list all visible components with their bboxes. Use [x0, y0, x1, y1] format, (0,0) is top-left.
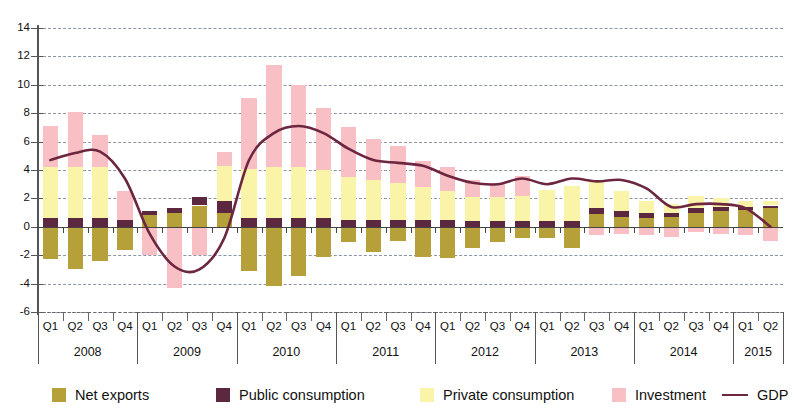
x-axis-year-label: 2009 — [137, 340, 236, 364]
bar-segment — [167, 213, 182, 227]
legend-item[interactable]: Private consumption — [420, 387, 574, 403]
bar-segment — [217, 213, 232, 227]
legend-item-label: Net exports — [75, 387, 149, 403]
quarter-bracket — [386, 312, 412, 321]
bar-segment — [738, 227, 753, 236]
legend-item[interactable]: GDP — [722, 387, 788, 403]
bar-segment — [366, 227, 381, 253]
bar-segment — [639, 218, 654, 227]
bar-segment — [291, 218, 306, 227]
bar-segment — [738, 201, 753, 207]
quarter-bracket — [113, 312, 139, 321]
bar-segment — [763, 206, 778, 209]
quarter-bracket — [435, 312, 461, 321]
bar-segment — [68, 227, 83, 270]
bar-segment — [92, 167, 107, 218]
bar-segment — [142, 227, 157, 255]
quarter-bracket — [510, 312, 536, 321]
bar-segment — [639, 213, 654, 219]
quarter-bracket — [237, 312, 263, 321]
bar-segment — [291, 85, 306, 167]
bar-segment — [515, 176, 530, 196]
bar-segment — [763, 227, 778, 241]
bar-segment — [639, 227, 654, 236]
bar-segment — [291, 227, 306, 277]
bar-segment — [341, 177, 356, 220]
x-axis-tick — [485, 227, 486, 233]
x-axis-year-label: 2010 — [237, 340, 336, 364]
x-axis-tick — [684, 227, 685, 233]
legend-color-swatch-icon — [216, 388, 230, 402]
bar-segment — [415, 187, 430, 220]
bar-segment — [142, 211, 157, 215]
year-separator — [733, 312, 734, 364]
x-axis-tick — [560, 227, 561, 233]
year-separator — [336, 312, 337, 364]
bar-segment — [713, 207, 728, 211]
x-axis-year-label: 2011 — [336, 340, 435, 364]
quarter-bracket — [88, 312, 114, 321]
bar-segment — [241, 218, 256, 227]
quarter-bracket — [609, 312, 635, 321]
quarter-bracket — [311, 312, 337, 321]
x-axis-tick — [659, 227, 660, 233]
bar-segment — [192, 227, 207, 255]
bar-segment — [539, 227, 554, 238]
bar-segment — [117, 227, 132, 250]
bar-segment — [117, 191, 132, 219]
bar-segment — [664, 213, 679, 217]
bar-segment — [43, 126, 58, 167]
quarter-bracket — [212, 312, 238, 321]
bar-segment — [440, 227, 455, 258]
x-axis-tick — [63, 227, 64, 233]
bar-segment — [564, 186, 579, 222]
bar-segment — [142, 215, 157, 226]
bar-segment — [614, 217, 629, 227]
year-separator — [435, 312, 436, 364]
bar-segment — [738, 210, 753, 227]
legend-item-label: Public consumption — [239, 387, 365, 403]
bar-segment — [688, 196, 703, 209]
bar-segment — [390, 183, 405, 220]
quarter-bracket — [286, 312, 312, 321]
bar-segment — [92, 218, 107, 227]
legend-color-swatch-icon — [612, 388, 626, 402]
bar-segment — [217, 201, 232, 212]
legend-color-swatch-icon — [52, 388, 66, 402]
bar-segment — [614, 211, 629, 217]
bar-segment — [465, 197, 480, 221]
bar-segment — [688, 213, 703, 227]
year-separator — [783, 312, 784, 364]
bar-segment — [291, 167, 306, 218]
x-axis-tick — [510, 227, 511, 233]
x-axis-tick — [137, 227, 138, 233]
bar-segment — [763, 201, 778, 205]
bar-segment — [738, 207, 753, 210]
bar-segment — [341, 127, 356, 177]
bar-segment — [490, 197, 505, 221]
bar-segment — [217, 152, 232, 166]
legend-item-label: GDP — [757, 387, 788, 403]
bar-segment — [390, 146, 405, 183]
x-axis-year-band: 20082009201020112012201320142015 — [0, 340, 796, 366]
x-axis-tick — [386, 227, 387, 233]
year-separator — [38, 312, 39, 364]
bar-segment — [92, 135, 107, 168]
bar-segment — [639, 201, 654, 212]
legend-item[interactable]: Investment — [612, 387, 706, 403]
x-axis-tick — [187, 227, 188, 233]
quarter-bracket — [758, 312, 784, 321]
bar-segment — [664, 217, 679, 227]
quarter-bracket — [584, 312, 610, 321]
year-separator — [634, 312, 635, 364]
bar-segment — [241, 98, 256, 169]
x-axis-tick — [460, 227, 461, 233]
legend-item[interactable]: Net exports — [52, 387, 149, 403]
x-axis-tick — [237, 227, 238, 233]
x-axis-tick — [113, 227, 114, 233]
bar-segment — [465, 180, 480, 197]
legend-item[interactable]: Public consumption — [216, 387, 365, 403]
legend-item-label: Private consumption — [443, 387, 574, 403]
quarter-bracket — [336, 312, 362, 321]
bar-segment — [92, 227, 107, 261]
